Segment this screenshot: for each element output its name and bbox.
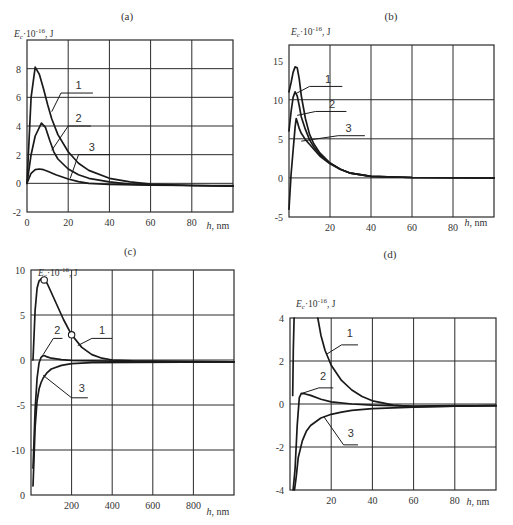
y-tick-label: -5 bbox=[275, 212, 283, 223]
curve-number-label: 2 bbox=[75, 112, 81, 124]
y-tick-label: -2 bbox=[13, 207, 21, 218]
x-tick-label: 80 bbox=[448, 222, 458, 233]
curve-number-label: 2 bbox=[54, 324, 60, 336]
y-tick-label: 10 bbox=[273, 95, 283, 106]
curve-number-label: 1 bbox=[75, 79, 81, 91]
x-tick-label: 20 bbox=[63, 217, 73, 228]
y-tick-labels: 0-10-50510 bbox=[12, 265, 25, 501]
curve-1 bbox=[33, 279, 234, 362]
panel-title: (b) bbox=[385, 10, 398, 23]
y-tick-label: 0 bbox=[20, 355, 25, 366]
x-tick-labels: 20406080 bbox=[325, 222, 458, 233]
curve-1 bbox=[293, 318, 294, 395]
x-tick-label: 200 bbox=[64, 500, 79, 511]
x-tick-label: 600 bbox=[145, 500, 160, 511]
grid bbox=[289, 45, 494, 217]
curve-labels: 123 bbox=[302, 327, 358, 445]
panel-title: (a) bbox=[121, 10, 134, 23]
leader-line bbox=[326, 345, 341, 355]
y-tick-label: -4 bbox=[276, 485, 284, 496]
y-tick-label: -10 bbox=[12, 445, 25, 456]
x-tick-label: 0 bbox=[25, 217, 30, 228]
plot-frame bbox=[289, 45, 494, 217]
x-tick-label: 800 bbox=[186, 500, 201, 511]
y-tick-label: 2 bbox=[16, 150, 21, 161]
leader-line bbox=[302, 388, 318, 393]
y-tick-labels: -4-2024 bbox=[276, 313, 284, 496]
chart-panel-b: (b)20406080-5051015Ec·10-16, Jh, nm123 bbox=[273, 10, 494, 233]
x-axis-label: h, nm bbox=[207, 220, 230, 231]
leader-line bbox=[52, 93, 61, 112]
y-tick-label: 0 bbox=[16, 178, 21, 189]
y-tick-labels: -202468 bbox=[13, 64, 21, 218]
y-tick-labels: -5051015 bbox=[273, 56, 283, 223]
y-tick-label: 4 bbox=[279, 313, 284, 324]
leader-line bbox=[78, 338, 92, 345]
chart-panel-c: (c)2004006008000-10-50510Ec·10-16, Jh, n… bbox=[12, 245, 234, 517]
figure-canvas: (a)020406080-202468Ec·10-16, Jh, nm123(b… bbox=[0, 0, 513, 525]
curves bbox=[27, 67, 233, 186]
chart-panel-d: (d)20406080-4-2024Ec·10-16, Jh, nm123 bbox=[276, 248, 496, 507]
y-tick-label: -5 bbox=[17, 400, 25, 411]
x-tick-label: 80 bbox=[450, 495, 460, 506]
y-tick-label: 5 bbox=[278, 134, 283, 145]
x-tick-label: 20 bbox=[326, 495, 336, 506]
y-tick-label: -2 bbox=[276, 442, 284, 453]
x-tick-labels: 20406080 bbox=[326, 495, 460, 506]
x-tick-label: 40 bbox=[366, 222, 376, 233]
x-tick-label: 40 bbox=[367, 495, 377, 506]
y-tick-label: 10 bbox=[15, 265, 25, 276]
leader-line bbox=[296, 86, 309, 93]
x-tick-labels: 200400600800 bbox=[64, 500, 201, 511]
curve-number-label: 1 bbox=[347, 327, 353, 339]
x-tick-label: 60 bbox=[146, 217, 156, 228]
y-tick-label: 8 bbox=[16, 64, 21, 75]
curve-number-label: 1 bbox=[99, 324, 105, 336]
curve-number-label: 3 bbox=[89, 141, 95, 153]
data-marker bbox=[41, 277, 47, 283]
x-tick-label: 60 bbox=[409, 495, 419, 506]
curves bbox=[33, 277, 234, 486]
y-axis-label: Ec·10-16, J bbox=[295, 297, 336, 311]
curve-2 bbox=[33, 356, 234, 469]
figure: (a)020406080-202468Ec·10-16, Jh, nm123(b… bbox=[0, 0, 513, 525]
y-axis-label: Ec·10-16, J bbox=[13, 27, 54, 41]
y-tick-label: 0 bbox=[20, 490, 25, 501]
curve-1 bbox=[289, 67, 494, 178]
curve-3 bbox=[33, 362, 234, 486]
panel-title: (d) bbox=[384, 248, 397, 261]
y-tick-label: 6 bbox=[16, 92, 21, 103]
x-axis-label: h, nm bbox=[207, 506, 230, 517]
curve-number-label: 2 bbox=[329, 98, 335, 110]
x-tick-label: 40 bbox=[104, 217, 114, 228]
data-marker bbox=[68, 332, 74, 338]
curve-number-label: 3 bbox=[345, 122, 351, 134]
panel-title: (c) bbox=[124, 245, 137, 258]
x-tick-label: 400 bbox=[105, 500, 120, 511]
y-tick-label: 4 bbox=[16, 121, 21, 132]
leader-line bbox=[43, 375, 71, 398]
y-tick-label: 0 bbox=[278, 173, 283, 184]
leader-line bbox=[43, 338, 53, 354]
curve-number-label: 3 bbox=[79, 382, 85, 394]
x-axis-label: h, nm bbox=[467, 496, 490, 507]
chart-panel-a: (a)020406080-202468Ec·10-16, Jh, nm123 bbox=[13, 10, 233, 231]
curve-labels: 123 bbox=[52, 79, 110, 178]
curve-3 bbox=[289, 119, 494, 210]
curve-number-label: 1 bbox=[325, 73, 331, 85]
curve-number-label: 3 bbox=[348, 427, 354, 439]
curve-2 bbox=[289, 92, 494, 178]
y-tick-label: 15 bbox=[273, 56, 283, 67]
curve-1b bbox=[318, 318, 496, 407]
x-axis-label: h, nm bbox=[465, 217, 488, 228]
plot-frame bbox=[31, 270, 234, 495]
curve-number-label: 2 bbox=[320, 370, 326, 382]
y-axis-label: Ec·10-16, J bbox=[290, 25, 331, 39]
x-tick-labels: 020406080 bbox=[25, 217, 197, 228]
y-tick-label: 0 bbox=[279, 399, 284, 410]
grid bbox=[290, 318, 496, 490]
curve-1 bbox=[27, 67, 233, 186]
y-tick-label: 2 bbox=[279, 356, 284, 367]
grid bbox=[31, 270, 234, 495]
x-tick-label: 60 bbox=[407, 222, 417, 233]
